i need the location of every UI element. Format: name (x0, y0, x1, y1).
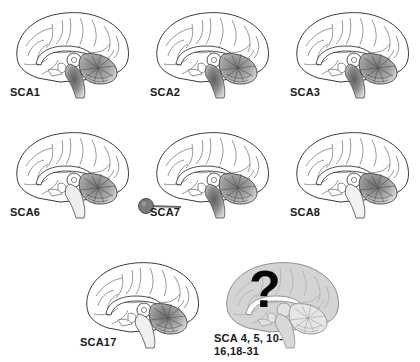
panel-sca2: SCA2 (148, 8, 276, 100)
panel-sca-unknown: ? SCA 4, 5, 10- 16,18-31 (218, 258, 346, 350)
panel-label-sca8: SCA8 (290, 206, 320, 219)
panel-label-sca7: SCA7 (150, 206, 180, 219)
question-mark-icon: ? (249, 263, 281, 315)
panel-label-sca-unknown-line1: SCA 4, 5, 10- (214, 332, 283, 345)
sca-brain-atrophy-figure: SCA1 (0, 0, 420, 362)
panel-label-sca1: SCA1 (10, 86, 40, 99)
panel-label-sca3: SCA3 (290, 86, 320, 99)
panel-sca17: SCA17 (78, 258, 206, 350)
panel-label-sca17: SCA17 (80, 336, 116, 349)
panel-sca7: SCA7 (148, 128, 276, 220)
panel-sca1: SCA1 (8, 8, 136, 100)
panel-label-sca6: SCA6 (10, 206, 40, 219)
panel-label-sca-unknown-line2: 16,18-31 (214, 345, 259, 358)
panel-sca6: SCA6 (8, 128, 136, 220)
panel-sca8: SCA8 (288, 128, 416, 220)
panel-sca3: SCA3 (288, 8, 416, 100)
panel-label-sca2: SCA2 (150, 86, 180, 99)
